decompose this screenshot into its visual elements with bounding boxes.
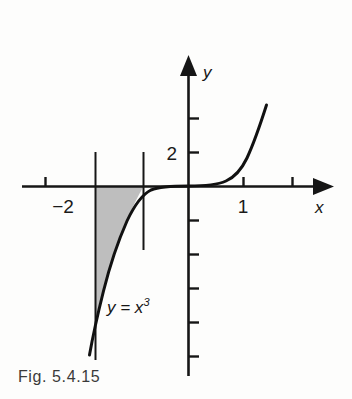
- curve-equation-exponent: 3: [143, 296, 150, 308]
- y-axis-arrow-icon: [180, 55, 197, 76]
- function-plot: y x −2 1 2 y = x3: [0, 0, 352, 399]
- x-tick-label-neg2: −2: [52, 196, 74, 217]
- curve-equation-base: y = x: [106, 298, 144, 317]
- x-axis-label: x: [314, 198, 324, 217]
- x-axis-arrow-icon: [313, 178, 334, 195]
- figure-caption: Fig. 5.4.15: [18, 368, 100, 386]
- figure-container: y x −2 1 2 y = x3 Fig. 5.4.15: [0, 0, 352, 399]
- y-axis-label: y: [202, 63, 213, 82]
- curve-equation-label: y = x3: [106, 296, 150, 317]
- x-tick-label-1: 1: [238, 196, 249, 217]
- y-tick-label-2: 2: [166, 143, 177, 164]
